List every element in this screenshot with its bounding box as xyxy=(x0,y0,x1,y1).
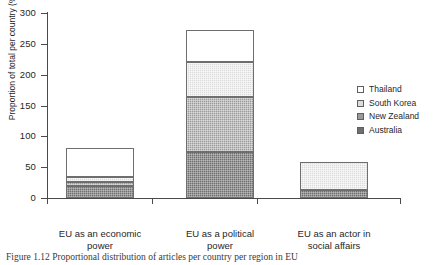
legend-item-south-korea[interactable]: South Korea xyxy=(357,97,433,111)
bar-segment-new-zealand xyxy=(186,97,254,152)
y-axis-line xyxy=(47,12,48,199)
legend-label-new-zealand: New Zealand xyxy=(369,112,419,121)
legend-item-thailand[interactable]: Thailand xyxy=(357,83,433,97)
bar-segment-south-korea xyxy=(300,162,368,190)
legend-item-new-zealand[interactable]: New Zealand xyxy=(357,110,433,124)
x-category-line-1: EU as an economic xyxy=(40,228,160,240)
bar-eu-political-power xyxy=(186,30,254,198)
legend: Thailand South Korea New Zealand Austral… xyxy=(357,83,433,137)
legend-label-south-korea: South Korea xyxy=(369,99,416,108)
x-axis-line xyxy=(47,198,400,199)
x-tick-1 xyxy=(152,198,153,204)
x-category-line-1: EU as a political xyxy=(162,228,278,240)
legend-swatch-new-zealand-icon xyxy=(357,113,364,120)
bar-segment-australia xyxy=(66,186,134,198)
figure-stacked-bar-chart: 300 250 200 150 100 50 0 Proportion of t… xyxy=(0,0,433,265)
bar-eu-actor-social-affairs xyxy=(300,162,368,198)
legend-swatch-south-korea-icon xyxy=(357,100,364,107)
x-category-label-political-power: EU as a political power xyxy=(162,228,278,251)
y-tick-label-0: 0 xyxy=(2,193,36,203)
x-category-label-social-affairs: EU as an actor in social affairs xyxy=(277,228,391,251)
y-tick-label-50: 50 xyxy=(2,162,36,172)
legend-label-thailand: Thailand xyxy=(369,85,402,94)
x-category-line-2: social affairs xyxy=(277,240,391,252)
bar-segment-south-korea xyxy=(186,62,254,97)
legend-label-australia: Australia xyxy=(369,126,402,135)
x-category-label-economic-power: EU as an economic power xyxy=(40,228,160,251)
y-tick-150 xyxy=(41,106,47,107)
x-category-line-2: power xyxy=(162,240,278,252)
y-tick-50 xyxy=(41,167,47,168)
bar-eu-economic-power xyxy=(66,148,134,198)
bar-segment-australia xyxy=(186,152,254,198)
x-tick-right xyxy=(400,198,401,204)
y-tick-100 xyxy=(41,136,47,137)
x-tick-left xyxy=(47,198,48,204)
x-category-line-2: power xyxy=(40,240,160,252)
y-tick-200 xyxy=(41,75,47,76)
bar-segment-thailand xyxy=(66,148,134,177)
x-category-line-1: EU as an actor in xyxy=(277,228,391,240)
bar-segment-thailand xyxy=(186,30,254,62)
legend-item-australia[interactable]: Australia xyxy=(357,124,433,138)
legend-swatch-australia-icon xyxy=(357,127,364,134)
bar-segment-australia xyxy=(300,190,368,198)
figure-caption: Figure 1.12 Proportional distribution of… xyxy=(6,252,430,263)
y-tick-250 xyxy=(41,44,47,45)
legend-swatch-thailand-icon xyxy=(357,86,364,93)
y-tick-300 xyxy=(41,13,47,14)
y-axis-title: Proportion of total per country (%) xyxy=(8,0,17,137)
x-tick-2 xyxy=(257,198,258,204)
